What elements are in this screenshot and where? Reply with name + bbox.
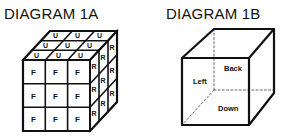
sticker-label-f: F bbox=[31, 68, 36, 77]
sticker-label-u: U bbox=[87, 42, 92, 49]
sticker-label-r: R bbox=[92, 86, 97, 93]
sticker-label-f: F bbox=[53, 115, 58, 124]
sticker-label-u: U bbox=[78, 52, 83, 59]
sticker-label-r: R bbox=[101, 77, 106, 84]
sticker-label-r: R bbox=[110, 67, 115, 74]
sticker-label-u: U bbox=[43, 42, 48, 49]
sticker-label-r: R bbox=[101, 54, 106, 61]
face-label-down: Down bbox=[218, 104, 239, 113]
sticker-label-f: F bbox=[75, 115, 80, 124]
sticker-label-r: R bbox=[110, 90, 115, 97]
sticker-label-u: U bbox=[56, 52, 61, 59]
sticker-label-f: F bbox=[75, 92, 80, 101]
sticker-label-f: F bbox=[75, 68, 80, 77]
face-label-left: Left bbox=[193, 77, 207, 86]
sticker-label-r: R bbox=[110, 44, 115, 51]
sticker-label-u: U bbox=[65, 42, 70, 49]
sticker-label-u: U bbox=[75, 32, 80, 39]
face-label-back: Back bbox=[224, 64, 243, 73]
diagrams-canvas: F F F F F F F F F U U U U U U U U U R R … bbox=[0, 0, 289, 136]
sticker-label-f: F bbox=[53, 68, 58, 77]
sticker-label-f: F bbox=[31, 115, 36, 124]
sticker-label-r: R bbox=[92, 110, 97, 117]
sticker-label-u: U bbox=[97, 32, 102, 39]
sticker-label-f: F bbox=[31, 92, 36, 101]
sticker-label-u: U bbox=[53, 32, 58, 39]
sticker-label-f: F bbox=[53, 92, 58, 101]
face-labels: Left Back Down bbox=[193, 64, 243, 113]
sticker-label-u: U bbox=[34, 52, 39, 59]
sticker-label-r: R bbox=[92, 63, 97, 70]
sticker-label-r: R bbox=[101, 100, 106, 107]
